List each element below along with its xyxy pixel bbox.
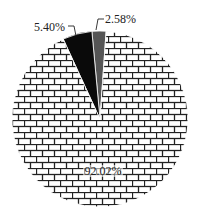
slice-label: 2.58% (105, 12, 136, 26)
slice-label: 5.40% (34, 20, 65, 34)
pie-slices (12, 31, 188, 207)
slice-label: 92.02% (85, 164, 122, 178)
pie-chart: 5.40%2.58%92.02% (0, 0, 202, 224)
leader-line (96, 19, 104, 30)
